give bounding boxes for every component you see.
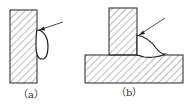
panel-b [85,8,183,83]
panel-a [10,10,63,83]
arrowhead-b [139,31,145,36]
arrowhead-a [39,27,45,31]
panel-b-label: （b） [116,88,142,98]
panel-a-label: （a） [18,90,44,100]
vertical-plate-b [109,8,137,55]
weld-bead-a [36,30,48,59]
base-plate-b [85,55,183,83]
weld-bead-b [137,35,165,57]
plate-a [10,10,37,83]
